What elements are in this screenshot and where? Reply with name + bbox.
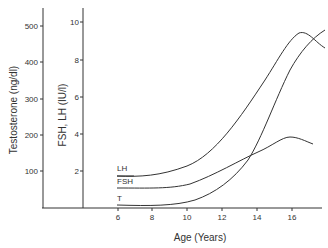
series-t-line: [117, 30, 325, 205]
x-tick-16: 16: [288, 213, 297, 222]
left-tick-400: 400: [25, 58, 39, 67]
hormone-chart: 500 400 300 200 100 10 8 6 4 2 6 8 10 12…: [0, 0, 328, 248]
left-tick-500: 500: [25, 22, 39, 31]
x-tick-12: 12: [218, 213, 227, 222]
right-y-axis-title: FSH, LH (IU/l): [57, 84, 68, 147]
x-tick-10: 10: [183, 213, 192, 222]
left-tick-100: 100: [25, 167, 39, 176]
right-tick-4: 4: [75, 130, 80, 139]
right-tick-6: 6: [75, 93, 80, 102]
series-label-fsh: FSH: [117, 177, 133, 186]
right-tick-10: 10: [70, 18, 79, 27]
left-tick-300: 300: [25, 95, 39, 104]
series-fsh-line: [117, 137, 313, 188]
x-tick-14: 14: [253, 213, 262, 222]
left-tick-200: 200: [25, 131, 39, 140]
right-tick-8: 8: [75, 56, 80, 65]
x-axis-title: Age (Years): [174, 232, 226, 243]
series-lh-line: [117, 33, 325, 177]
x-tick-8: 8: [150, 213, 155, 222]
series-label-lh: LH: [117, 164, 127, 173]
left-y-axis-title: Testosterone (ng/dl): [8, 66, 19, 154]
series-label-t: T: [117, 194, 122, 203]
right-tick-2: 2: [75, 167, 80, 176]
x-tick-6: 6: [116, 213, 121, 222]
